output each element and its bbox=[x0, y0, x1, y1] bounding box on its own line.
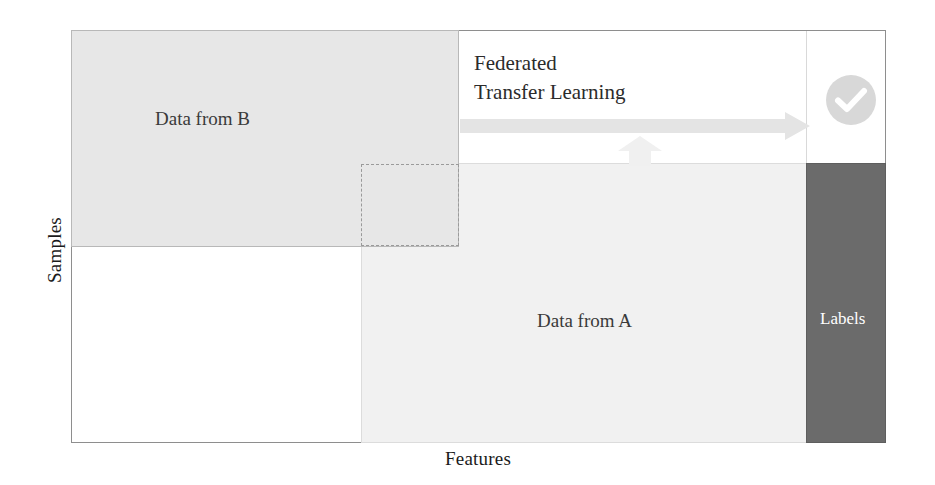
figure-canvas: Samples Data from B Data from A Labels F… bbox=[0, 0, 935, 485]
check-circle-icon bbox=[826, 75, 876, 125]
up-arrow-icon bbox=[618, 136, 662, 166]
federated-transfer-learning-annotation: Federated Transfer Learning bbox=[474, 49, 625, 107]
labels-block bbox=[806, 163, 886, 443]
y-axis-label: Samples bbox=[44, 170, 66, 330]
data-from-a-label: Data from A bbox=[537, 310, 632, 332]
overlap-region-dashed bbox=[361, 164, 459, 246]
labels-column-divider bbox=[806, 31, 807, 163]
data-from-b-label: Data from B bbox=[155, 108, 250, 130]
labels-column-label: Labels bbox=[820, 309, 865, 329]
x-axis-label: Features bbox=[398, 448, 558, 470]
